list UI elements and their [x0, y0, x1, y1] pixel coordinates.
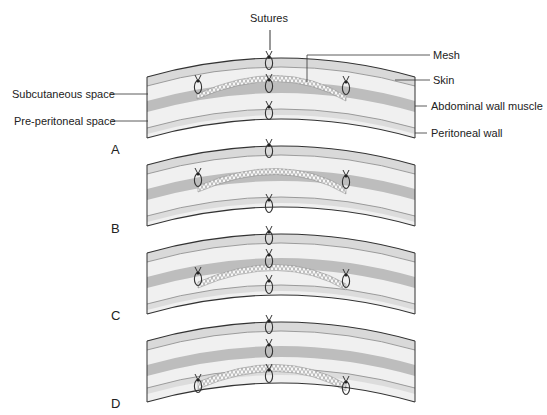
panel-b: [147, 139, 415, 226]
panel-label-d: D: [111, 397, 120, 411]
label-mesh: Mesh: [433, 49, 460, 61]
panel-label-b: B: [111, 222, 120, 236]
label-abdominal-wall-muscle: Abdominal wall muscle: [431, 100, 543, 112]
panel-label-c: C: [111, 309, 120, 323]
mesh-placement-diagram: [0, 0, 547, 415]
panel-c: [147, 226, 415, 314]
label-preperitoneal-space: Pre-peritoneal space: [14, 115, 116, 127]
panel-a: [147, 51, 415, 138]
panel-d: [147, 315, 415, 402]
label-peritoneal-wall: Peritoneal wall: [431, 127, 503, 139]
sutures-label: Sutures: [250, 12, 288, 24]
label-subcutaneous-space: Subcutaneous space: [12, 88, 115, 100]
panel-label-a: A: [111, 143, 120, 157]
label-skin: Skin: [433, 74, 454, 86]
